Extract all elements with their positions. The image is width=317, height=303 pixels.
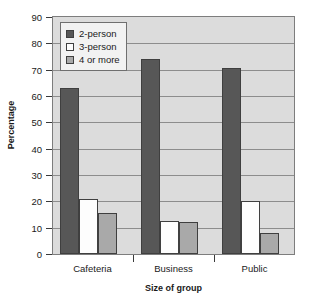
x-axis-title: Size of group [52,283,295,293]
legend-item-label: 3-person [79,41,117,52]
y-axis-title: Percentage [2,0,20,250]
bar [79,199,98,254]
y-axis-tick-label: 10 [2,228,42,229]
x-axis-tick-label: Business [133,263,214,274]
legend-item-label: 2-person [79,28,117,39]
y-axis-tick-label: 60 [2,96,42,97]
y-axis-title-text: Percentage [6,101,16,150]
chart-legend: 2-person3-person4 or more [60,22,127,71]
y-axis-tick-label: 90 [2,17,42,18]
legend-swatch-icon [66,56,74,64]
bar [241,201,260,254]
x-axis-tick-mark [214,255,215,262]
bar-group-bars [215,17,296,254]
x-axis-tick-label: Cafeteria [52,263,133,274]
y-axis-tick-label: 80 [2,43,42,44]
bar-chart-figure: Percentage 0102030405060708090 Size of g… [0,0,317,303]
y-axis-tick-label: 0 [2,254,42,255]
legend-item: 4 or more [66,53,120,66]
y-axis-tick-label: 20 [2,201,42,202]
bar [141,59,160,254]
legend-item-label: 4 or more [79,54,120,65]
bar [98,213,117,254]
x-axis-tick-mark [133,255,134,262]
legend-item: 3-person [66,40,120,53]
legend-swatch-icon [66,43,74,51]
bar [160,221,179,254]
legend-swatch-icon [66,30,74,38]
bar [260,233,279,254]
bar-group [134,17,215,254]
legend-item: 2-person [66,27,120,40]
bar [60,88,79,254]
x-axis-tick-label: Public [214,263,295,274]
y-axis-tick-label: 70 [2,70,42,71]
y-axis-tick-label: 50 [2,122,42,123]
bar [222,68,241,254]
y-axis-tick-label: 40 [2,149,42,150]
bar-group [215,17,296,254]
bar [179,222,198,254]
bar-group-bars [134,17,215,254]
y-axis-tick-label: 30 [2,175,42,176]
